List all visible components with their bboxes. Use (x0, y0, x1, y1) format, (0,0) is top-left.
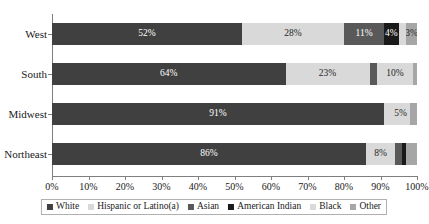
bar-segment-hispanic-or-latino-a[interactable] (384, 103, 391, 125)
x-axis-tick (89, 176, 90, 180)
legend-item-american-indian[interactable]: American Indian (228, 202, 301, 212)
segment-value-label: 5% (394, 109, 407, 119)
legend-item-hispanic-or-latino-a[interactable]: Hispanic or Latino(a) (88, 202, 179, 212)
legend-swatch-icon (88, 204, 94, 210)
legend-label: White (56, 202, 79, 212)
x-axis-tick-label: 100% (405, 181, 428, 192)
x-axis-tick (417, 176, 418, 180)
bar-segment-asian[interactable]: 11% (344, 23, 384, 45)
segment-value-label: 11% (356, 29, 373, 39)
bar-segment-black[interactable]: 5% (391, 103, 409, 125)
chart-category-row: Midwest91%5% (52, 94, 417, 134)
x-axis-tick-label: 90% (371, 181, 389, 192)
bar-segment-hispanic-or-latino-a[interactable]: 23% (286, 63, 370, 85)
bar-segment-white[interactable]: 52% (52, 23, 242, 45)
legend-swatch-icon (228, 204, 234, 210)
segment-value-label: 86% (200, 149, 217, 159)
segment-value-label: 64% (160, 69, 177, 79)
category-label-midwest: Midwest (9, 108, 48, 120)
x-axis-tick (52, 176, 53, 180)
segment-value-label: 8% (374, 149, 387, 159)
bar-segment-other[interactable]: 3% (406, 23, 417, 45)
x-axis-tick-label: 50% (225, 181, 243, 192)
plot-area: West52%28%11%4%3%South64%23%10%Midwest91… (52, 14, 417, 174)
legend-label: Other (359, 202, 381, 212)
chart-category-row: West52%28%11%4%3% (52, 14, 417, 54)
stacked-bar-south[interactable]: 64%23%10% (52, 63, 417, 85)
x-axis-tick-label: 20% (116, 181, 134, 192)
chart-category-row: Northeast86%8% (52, 134, 417, 174)
segment-value-label: 28% (284, 29, 301, 39)
x-axis-tick (381, 176, 382, 180)
category-label-northeast: Northeast (4, 148, 47, 160)
segment-value-label: 4% (385, 29, 398, 39)
x-axis-tick-label: 40% (189, 181, 207, 192)
segment-value-label: 52% (138, 29, 155, 39)
x-axis-tick-label: 80% (335, 181, 353, 192)
legend-swatch-icon (350, 204, 356, 210)
x-axis-tick (198, 176, 199, 180)
legend-item-black[interactable]: Black (310, 202, 341, 212)
x-axis-tick (271, 176, 272, 180)
x-axis-tick (344, 176, 345, 180)
legend-swatch-icon (310, 204, 316, 210)
bar-segment-white[interactable]: 86% (52, 143, 366, 165)
category-label-west: West (25, 28, 47, 40)
bar-segment-other[interactable] (413, 63, 417, 85)
category-label-south: South (21, 68, 47, 80)
bar-segment-white[interactable]: 91% (52, 103, 384, 125)
stacked-bar-midwest[interactable]: 91%5% (52, 103, 417, 125)
x-axis-tick (235, 176, 236, 180)
legend-item-white[interactable]: White (47, 202, 79, 212)
legend-label: Asian (197, 202, 219, 212)
legend-label: Hispanic or Latino(a) (97, 202, 179, 212)
segment-value-label: 10% (386, 69, 403, 79)
x-axis-tick-label: 70% (298, 181, 316, 192)
legend-swatch-icon (47, 204, 53, 210)
legend-item-asian[interactable]: Asian (188, 202, 219, 212)
stacked-bar-northeast[interactable]: 86%8% (52, 143, 417, 165)
segment-value-label: 91% (209, 109, 226, 119)
x-axis-tick (308, 176, 309, 180)
bar-segment-black[interactable]: 10% (377, 63, 414, 85)
bar-segment-other[interactable] (410, 103, 417, 125)
x-axis-tick-label: 60% (262, 181, 280, 192)
x-axis-tick-label: 0% (45, 181, 58, 192)
bar-segment-hispanic-or-latino-a[interactable]: 8% (366, 143, 395, 165)
segment-value-label: 3% (406, 29, 417, 39)
bar-segment-asian[interactable] (370, 63, 377, 85)
legend-label: Black (319, 202, 341, 212)
bar-segment-american-indian[interactable]: 4% (384, 23, 399, 45)
segment-value-label: 23% (319, 69, 336, 79)
x-axis-tick-label: 10% (79, 181, 97, 192)
bar-segment-black[interactable] (399, 23, 406, 45)
bar-segment-hispanic-or-latino-a[interactable]: 28% (242, 23, 344, 45)
legend-label: American Indian (237, 202, 301, 212)
x-axis-tick (125, 176, 126, 180)
stacked-bar-west[interactable]: 52%28%11%4%3% (52, 23, 417, 45)
x-axis-tick-label: 30% (152, 181, 170, 192)
bar-segment-asian[interactable] (395, 143, 402, 165)
chart-legend: WhiteHispanic or Latino(a)AsianAmerican … (41, 199, 387, 215)
legend-swatch-icon (188, 204, 194, 210)
chart-category-row: South64%23%10% (52, 54, 417, 94)
bar-segment-white[interactable]: 64% (52, 63, 286, 85)
x-axis-tick (162, 176, 163, 180)
legend-item-other[interactable]: Other (350, 202, 381, 212)
bar-segment-other[interactable] (406, 143, 417, 165)
